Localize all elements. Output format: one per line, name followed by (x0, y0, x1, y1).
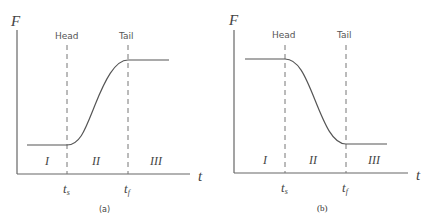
force-curve (27, 60, 169, 145)
caption-b: (b) (317, 203, 328, 213)
tf-label: tf (124, 181, 132, 197)
panel-b: F t Head Tail I II III ts tf (b) (228, 12, 421, 213)
region-II-label: II (91, 154, 101, 168)
x-axis-label: t (416, 167, 421, 183)
head-label: Head (272, 30, 296, 40)
region-I-label: I (44, 154, 50, 168)
region-I-label: I (262, 153, 268, 167)
panel-a: F t Head Tail I II III ts tf (a) (10, 13, 203, 214)
ts-label: ts (281, 180, 288, 196)
caption-a: (a) (99, 205, 110, 214)
diagram-canvas: F t Head Tail I II III ts tf (a) F t Hea… (0, 0, 432, 222)
y-axis-label: F (228, 12, 239, 28)
region-II-label: II (308, 153, 318, 167)
head-label: Head (55, 31, 79, 41)
tail-label: Tail (336, 30, 352, 40)
tf-label: tf (342, 180, 350, 196)
y-axis-label: F (10, 13, 21, 29)
region-III-label: III (149, 154, 163, 168)
region-III-label: III (367, 153, 381, 167)
x-axis-label: t (198, 168, 203, 184)
force-curve (245, 59, 387, 144)
tail-label: Tail (118, 31, 134, 41)
ts-label: ts (63, 181, 70, 197)
